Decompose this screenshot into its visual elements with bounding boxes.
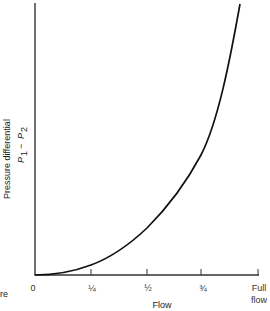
x-tick-label-0: 0	[30, 283, 35, 293]
y-formula-sub2: 2	[19, 127, 29, 132]
x-tick-label-quarter: ¼	[88, 283, 96, 293]
y-formula-sub1: 1	[19, 151, 29, 156]
x-tick-label-full-flow: flow	[251, 295, 268, 305]
y-axis-formula: P 1 − P 2	[16, 127, 29, 163]
y-axis-label: Pressure differential	[2, 119, 12, 199]
y-formula-p1: P	[16, 157, 26, 163]
y-axis-label-text: Pressure differential	[2, 119, 12, 199]
y-formula-p2: P	[16, 133, 26, 139]
x-tick-label-half: ½	[144, 283, 152, 293]
y-formula-minus: −	[16, 144, 26, 149]
pressure-flow-curve	[35, 4, 240, 275]
x-tick-label-three-quarter: ¾	[199, 283, 207, 293]
x-tick-label-full: Full	[252, 283, 267, 293]
x-axis-label: Flow	[152, 300, 172, 310]
cropped-text-fragment: re	[0, 289, 8, 299]
chart: 0 ¼ ½ ¾ Full flow Flow re Pressure diffe…	[0, 0, 270, 311]
